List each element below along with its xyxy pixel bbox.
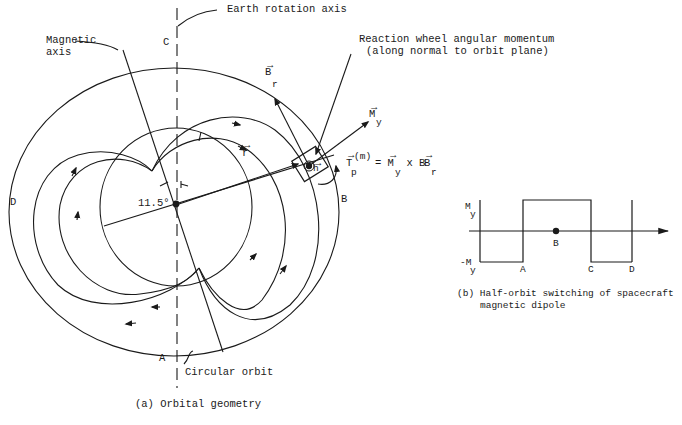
vector-br-sub: r — [272, 79, 278, 91]
plot-point-c: C — [588, 264, 594, 276]
magnetic-axis-label-1: Magnetic — [46, 34, 96, 46]
torque-eq-my-sub: y — [395, 167, 401, 179]
torque-eq-br-sub: r — [431, 167, 437, 179]
point-d-label: D — [10, 196, 16, 208]
dipole-switching-plot — [469, 200, 668, 262]
figure-a-caption: (a) Orbital geometry — [135, 398, 261, 410]
orbital-geometry-drawing — [0, 0, 682, 425]
my-pos-sub: y — [470, 209, 476, 221]
earth-axis-leader — [178, 10, 217, 26]
reaction-wheel-label-2: (along normal to orbit plane) — [366, 45, 549, 57]
torque-sup: (m) — [354, 151, 371, 163]
torque-eq-b: B — [424, 157, 430, 169]
vector-my-label: M — [369, 108, 375, 120]
orbit-leader — [184, 351, 193, 364]
my-neg-sub: y — [470, 265, 476, 277]
circular-orbit-label: Circular orbit — [185, 366, 273, 378]
magnetic-axis-label-2: axis — [46, 46, 71, 58]
figure-b-caption-1: (b) Half-orbit switching of spacecraft — [457, 288, 674, 300]
point-c-label: C — [163, 36, 169, 48]
plot-point-b: B — [553, 238, 559, 250]
b-field-vector — [275, 99, 309, 166]
vector-my-sub: y — [376, 117, 382, 129]
point-b-label: B — [341, 193, 347, 205]
figure: Earth rotation axis Magnetic axis Reacti… — [0, 0, 682, 425]
plot-point-a: A — [520, 264, 526, 276]
vector-r-label: r — [242, 147, 248, 159]
position-vector-r — [176, 164, 298, 205]
earth-rotation-axis-label: Earth rotation axis — [227, 3, 347, 15]
point-a-label: A — [159, 352, 165, 364]
plot-point-d: D — [629, 264, 635, 276]
figure-b-caption-2: magnetic dipole — [480, 300, 566, 312]
torque-sub: p — [351, 167, 357, 179]
vector-br-label: B — [265, 66, 271, 78]
tilt-angle-label: 11.5° — [138, 197, 170, 209]
vector-h-label: h — [313, 163, 319, 175]
circular-orbit — [9, 68, 339, 356]
reaction-wheel-label-1: Reaction wheel angular momentum — [359, 33, 554, 45]
